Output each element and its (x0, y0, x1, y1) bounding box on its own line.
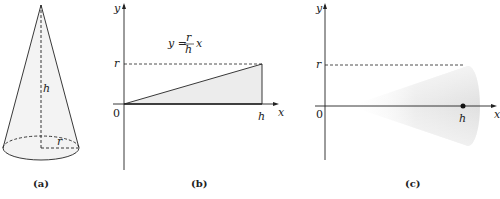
y-axis-arrow-icon (122, 3, 126, 9)
radius-label: r (57, 135, 63, 148)
height-label: h (43, 82, 50, 95)
x-axis-label: x (494, 108, 500, 121)
r-tick-label: r (316, 58, 322, 71)
svg-text:x: x (196, 37, 203, 50)
h-point (461, 104, 466, 109)
y-axis-label: y (113, 2, 121, 15)
panel-a-cone: h r (a) (3, 5, 79, 189)
figure-canvas: h r (a) y x 0 r h y = r h x (b) (0, 0, 500, 199)
x-axis-label: x (278, 106, 285, 119)
caption-a: (a) (33, 178, 49, 189)
h-tick-label: h (459, 112, 466, 125)
panel-b-graph: y x 0 r h y = r h x (b) (113, 2, 285, 189)
origin-label: 0 (316, 108, 323, 121)
panel-c-graph: y x 0 r h (c) (315, 2, 500, 189)
y-axis-arrow-icon (323, 3, 327, 9)
svg-text:y =: y = (167, 37, 187, 50)
r-tick-label: r (114, 57, 120, 70)
caption-b: (b) (191, 178, 207, 189)
h-tick-label: h (258, 110, 265, 123)
y-axis-label: y (315, 2, 323, 15)
svg-text:h: h (185, 43, 192, 56)
caption-c: (c) (405, 178, 421, 189)
origin-label: 0 (113, 107, 120, 120)
equation: y = r h x (167, 31, 203, 56)
